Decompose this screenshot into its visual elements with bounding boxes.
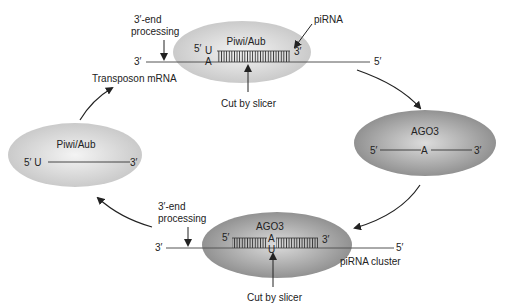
pirna-3prime-label: 3′: [130, 157, 138, 168]
pirna-5prime-label: 5′: [194, 43, 202, 54]
cut-by-slicer-label: Cut by slicer: [247, 292, 303, 303]
pirna-a-base: A: [421, 145, 428, 156]
top-complex-piwi-aub: Piwi/Aub 3′ 5′ 5′ U A 3′ 3′-end processi…: [92, 14, 382, 109]
target-3prime-label: 3′: [134, 56, 142, 67]
pirna-5prime-label: 5′: [370, 145, 378, 156]
bottom-complex-ago3: AGO3 3′ 5′ 5′ A U 3′ 3′-end processing p…: [155, 201, 404, 303]
pirna-label: piRNA: [314, 14, 343, 25]
target-u-base: U: [268, 244, 275, 255]
pirna-5prime-label: 5′: [222, 232, 230, 243]
protein-label: Piwi/Aub: [227, 36, 266, 47]
target-a-base: A: [205, 56, 212, 67]
processing-label-line2: processing: [158, 213, 206, 224]
cut-by-slicer-label: Cut by slicer: [221, 98, 277, 109]
cycle-arrow-right-to-bottom-icon: [355, 185, 420, 228]
target-5prime-label: 5′: [374, 56, 382, 67]
processing-label-line2: processing: [131, 26, 179, 37]
protein-label: Piwi/Aub: [57, 139, 96, 150]
protein-label: AGO3: [256, 221, 284, 232]
pirna-a-base: A: [268, 233, 275, 244]
pirna-cluster-label: piRNA cluster: [340, 256, 401, 267]
pirna-3prime-label: 3′: [322, 234, 330, 245]
cycle-arrow-top-to-right-icon: [357, 70, 420, 108]
pirna-u-base: U: [205, 45, 212, 56]
transposon-mrna-label: Transposon mRNA: [92, 73, 177, 84]
pirna-5prime-u-label: 5′ U: [24, 157, 41, 168]
right-complex-ago3: AGO3 5′ A 3′: [354, 110, 496, 176]
target-3prime-label: 3′: [155, 242, 163, 253]
ago3-protein-shape: [354, 110, 496, 176]
ping-pong-diagram: Piwi/Aub 3′ 5′ 5′ U A 3′ 3′-end processi…: [0, 0, 509, 306]
base-pair-ticks: [217, 51, 290, 62]
cycle-arrow-left-to-top-icon: [80, 88, 112, 120]
pirna-3prime-label: 3′: [474, 145, 482, 156]
protein-label: AGO3: [411, 126, 439, 137]
target-5prime-label: 5′: [396, 242, 404, 253]
cycle-arrow-bottom-to-left-icon: [98, 198, 152, 227]
base-pair-ticks-left: [232, 238, 267, 248]
processing-label-line1: 3′-end: [158, 201, 185, 212]
left-complex-piwi-aub: Piwi/Aub 5′ U 3′: [8, 123, 142, 187]
processing-label-line1: 3′-end: [134, 14, 161, 25]
base-pair-ticks-right: [276, 238, 318, 248]
pirna-3prime-label: 3′: [294, 46, 302, 57]
piwi-aub-protein-shape: [8, 123, 142, 187]
